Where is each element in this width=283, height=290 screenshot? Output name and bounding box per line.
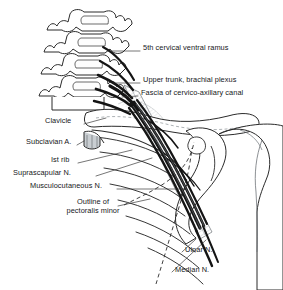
label-musculocutaneous-nerve: Musculocutaneous N. (30, 182, 102, 191)
clavicle-bone (84, 109, 259, 135)
label-median-nerve: Median N. (175, 266, 209, 275)
label-clavicle: Clavicle (45, 117, 71, 126)
subclavian-artery (84, 131, 104, 149)
label-suprascapular-nerve: Suprascapular N. (13, 169, 71, 178)
humerus-bone (219, 124, 283, 290)
label-5th-cervical-ventral-ramus: 5th cervical ventral ramus (143, 44, 229, 53)
pectoralis-minor-line-2: pectoralis minor (50, 207, 136, 216)
label-upper-trunk-brachial-plexus: Upper trunk, brachial plexus (143, 76, 236, 85)
label-pectoralis-minor-outline: Outline of pectoralis minor (50, 198, 136, 215)
label-subclavian-artery: Subclavian A. (26, 138, 71, 147)
pectoralis-minor-line-1: Outline of (77, 197, 109, 206)
label-fascia-cervico-axillary-canal: Fascia of cervico-axillary canal (141, 89, 243, 98)
label-ulnar-nerve: Ulnar N. (185, 246, 213, 255)
label-first-rib: Ist rib (51, 156, 69, 165)
anatomical-figure: 5th cervical ventral ramus Upper trunk, … (0, 0, 283, 290)
